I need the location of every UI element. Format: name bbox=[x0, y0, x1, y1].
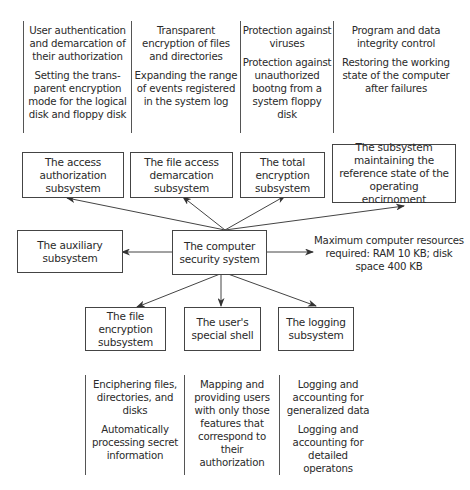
column-divider bbox=[279, 375, 280, 475]
box-label: The file encryption subsystem bbox=[89, 310, 162, 349]
box-label: The total encryption subsystem bbox=[244, 156, 321, 195]
computer-security-system-box: The computer security system bbox=[172, 230, 267, 275]
file-encryption-subsystem-box: The file encryption subsystem bbox=[85, 307, 166, 351]
box-label: The access authorization subsystem bbox=[26, 156, 120, 195]
box-label: The logging subsystem bbox=[282, 316, 350, 342]
box-label: The auxiliary subsystem bbox=[21, 239, 119, 265]
function-column-shell: Mapping and providing users with only th… bbox=[188, 378, 276, 475]
function-item: Logging and accounting for detailed oper… bbox=[282, 423, 374, 475]
resources-note: Maximum computer resources required: RAM… bbox=[314, 234, 464, 273]
users-special-shell-box: The user's special shell bbox=[184, 307, 261, 351]
function-item: Logging and accounting for generalized d… bbox=[282, 378, 374, 417]
auxiliary-subsystem-box: The auxiliary subsystem bbox=[17, 230, 123, 273]
reference-state-subsystem-box: The subsystem maintaining the reference … bbox=[332, 144, 456, 203]
box-label: The user's special shell bbox=[188, 316, 257, 342]
function-column-logging: Logging and accounting for generalized d… bbox=[282, 378, 374, 481]
box-label: The computer security system bbox=[176, 240, 263, 266]
box-label: The file access demarcation subsystem bbox=[134, 156, 229, 195]
access-authorization-subsystem-box: The access authorization subsystem bbox=[22, 152, 124, 198]
function-item: Enciphering files, directories, and disk… bbox=[88, 378, 182, 417]
column-divider bbox=[184, 375, 185, 475]
function-column-file-encryption: Enciphering files, directories, and disk… bbox=[88, 378, 182, 468]
logging-subsystem-box: The logging subsystem bbox=[278, 307, 354, 351]
function-item: Mapping and providing users with only th… bbox=[188, 378, 276, 469]
total-encryption-subsystem-box: The total encryption subsystem bbox=[240, 152, 325, 198]
function-item: Automatically processing secret informat… bbox=[88, 423, 182, 462]
file-access-demarcation-subsystem-box: The file access demarcation subsystem bbox=[130, 152, 233, 198]
box-label: The subsystem maintaining the reference … bbox=[336, 141, 452, 206]
column-divider bbox=[85, 375, 86, 475]
